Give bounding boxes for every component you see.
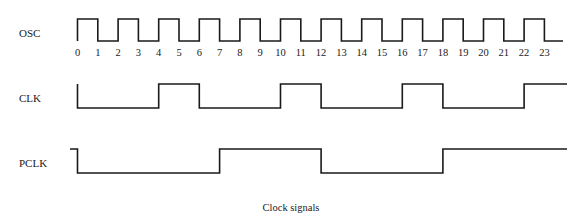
tick-label: 2 bbox=[115, 47, 120, 58]
signal-label-osc: OSC bbox=[19, 27, 40, 39]
signal-label-pclk: PCLK bbox=[19, 157, 47, 169]
tick-labels: 01234567891011121314151617181920212223 bbox=[75, 47, 550, 58]
tick-label: 14 bbox=[356, 47, 367, 58]
tick-label: 8 bbox=[237, 47, 242, 58]
tick-label: 6 bbox=[197, 47, 202, 58]
waveforms bbox=[70, 19, 567, 173]
tick-label: 21 bbox=[499, 47, 510, 58]
tick-label: 11 bbox=[296, 47, 306, 58]
tick-label: 13 bbox=[336, 47, 347, 58]
tick-label: 20 bbox=[478, 47, 489, 58]
tick-label: 10 bbox=[275, 47, 286, 58]
waveform-osc bbox=[78, 19, 564, 41]
tick-label: 19 bbox=[458, 47, 469, 58]
waveform-pclk bbox=[70, 149, 567, 173]
tick-label: 9 bbox=[258, 47, 263, 58]
tick-label: 0 bbox=[75, 47, 80, 58]
tick-label: 16 bbox=[397, 47, 408, 58]
tick-label: 18 bbox=[438, 47, 449, 58]
tick-label: 4 bbox=[156, 47, 162, 58]
tick-label: 17 bbox=[417, 47, 428, 58]
clock-timing-diagram: OSCCLKPCLK 01234567891011121314151617181… bbox=[0, 0, 583, 224]
tick-label: 23 bbox=[539, 47, 550, 58]
tick-label: 7 bbox=[217, 47, 222, 58]
signal-labels: OSCCLKPCLK bbox=[19, 27, 47, 169]
waveform-clk bbox=[78, 84, 568, 108]
signal-label-clk: CLK bbox=[19, 92, 41, 104]
figure-caption: Clock signals bbox=[263, 202, 320, 213]
tick-label: 5 bbox=[176, 47, 181, 58]
tick-label: 1 bbox=[95, 47, 100, 58]
tick-label: 15 bbox=[377, 47, 388, 58]
tick-label: 12 bbox=[316, 47, 327, 58]
tick-label: 22 bbox=[519, 47, 530, 58]
tick-label: 3 bbox=[136, 47, 141, 58]
